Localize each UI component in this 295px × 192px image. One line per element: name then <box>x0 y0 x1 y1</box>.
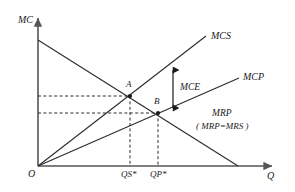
curve-label-mcp: MCP <box>243 72 264 82</box>
diagram-canvas <box>0 0 295 192</box>
curve-sublabel-mrp-mrs: ( MRP=MRS ) <box>196 122 249 131</box>
point-a-marker <box>128 94 132 98</box>
x-axis-label: Q <box>267 171 274 181</box>
economics-diagram: MC Q O MCS MCP MRP ( MRP=MRS ) A B MCE Q… <box>0 0 295 192</box>
annotation-label-mce: MCE <box>180 83 200 93</box>
curve-label-mcs: MCS <box>211 31 231 41</box>
y-axis-label: MC <box>18 15 33 25</box>
origin-label: O <box>28 169 35 179</box>
curve-mrp <box>38 40 238 166</box>
point-b-marker <box>156 111 160 115</box>
x-tick-label-qp: QP* <box>150 170 167 179</box>
curve-label-mrp: MRP <box>212 109 232 119</box>
point-label-a: A <box>126 80 132 89</box>
point-label-b: B <box>154 97 160 106</box>
x-tick-label-qs: QS* <box>121 170 137 179</box>
